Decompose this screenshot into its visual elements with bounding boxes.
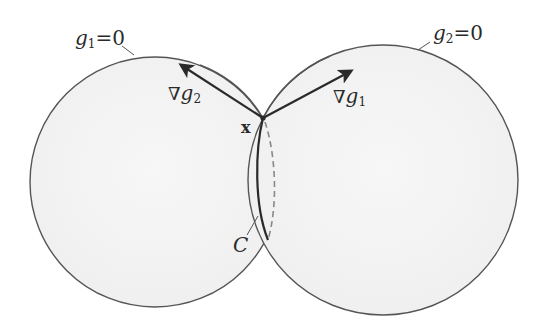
label-curve-c: C: [233, 233, 248, 257]
label-point-x: x: [241, 118, 251, 137]
point-x-dot: [260, 115, 265, 120]
label-g2-eq-0: g2=0: [433, 21, 483, 46]
surface-g1-sphere: [30, 57, 280, 307]
surface-g2-sphere: [248, 45, 518, 315]
label-g1-eq-0: g1=0: [75, 26, 125, 51]
g2-label-leader: [418, 42, 430, 50]
intersecting-surfaces-diagram: g1=0 g2=0 ∇g2 ∇g1 x C: [0, 0, 541, 329]
